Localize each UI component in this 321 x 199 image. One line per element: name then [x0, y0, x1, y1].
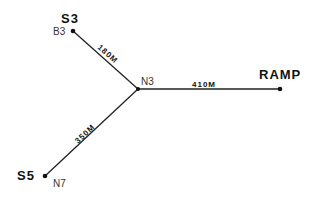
station-label-ramp: RAMP	[259, 67, 301, 82]
node-n3-dot	[136, 87, 140, 91]
station-label-s3: S3	[61, 11, 79, 26]
node-label-n7: N7	[53, 178, 66, 189]
station-label-s5: S5	[17, 168, 35, 183]
distance-label-410m: 410M	[192, 80, 216, 89]
edge-n3-b3	[73, 31, 138, 89]
node-ramp-dot	[278, 87, 283, 92]
network-diagram: S3 RAMP S5 B3 N3 N7 180M 410M 350M	[0, 0, 321, 199]
node-n7-dot	[43, 174, 48, 179]
distance-label-350m: 350M	[73, 123, 97, 146]
node-b3-dot	[71, 29, 76, 34]
node-label-n3: N3	[141, 76, 154, 87]
node-label-b3: B3	[53, 26, 66, 37]
